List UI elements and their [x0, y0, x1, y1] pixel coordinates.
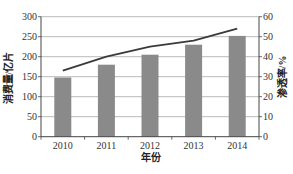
bar-2013 [185, 45, 202, 137]
left-y-axis-title: 消费量/亿片 [2, 52, 14, 105]
bar-2012 [142, 55, 159, 137]
left-y-tick-label: 300 [22, 11, 37, 22]
right-y-tick-label: 30 [263, 71, 273, 82]
right-y-axis-title: 渗透率/% [276, 56, 288, 99]
right-y-tick-label: 0 [263, 131, 268, 142]
bar-2010 [54, 78, 71, 137]
x-tick-label: 2013 [184, 140, 204, 151]
left-y-tick-label: 50 [27, 111, 37, 122]
x-tick-label: 2011 [97, 140, 117, 151]
x-tick-label: 2012 [140, 140, 160, 151]
x-tick-label: 2010 [53, 140, 73, 151]
bar-2014 [229, 36, 246, 137]
bar-2011 [98, 65, 115, 137]
left-y-tick-label: 200 [22, 51, 37, 62]
left-y-tick-label: 250 [22, 31, 37, 42]
x-tick-labels: 20102011201220132014 [53, 140, 247, 151]
right-y-tick-labels: 0102030405060 [263, 11, 273, 142]
right-y-tick-label: 40 [263, 51, 273, 62]
right-y-tick-label: 60 [263, 11, 273, 22]
left-y-tick-label: 0 [32, 131, 37, 142]
right-y-tick-label: 20 [263, 91, 273, 102]
right-y-tick-label: 50 [263, 31, 273, 42]
bar-series-consumption [54, 36, 245, 137]
left-y-tick-label: 150 [22, 71, 37, 82]
left-y-tick-label: 100 [22, 91, 37, 102]
combo-chart: 050100150200250300 0102030405060 2010201… [0, 0, 293, 174]
left-y-tick-labels: 050100150200250300 [22, 11, 37, 142]
right-y-tick-label: 10 [263, 111, 273, 122]
x-tick-label: 2014 [227, 140, 247, 151]
x-axis-title: 年份 [141, 151, 162, 163]
